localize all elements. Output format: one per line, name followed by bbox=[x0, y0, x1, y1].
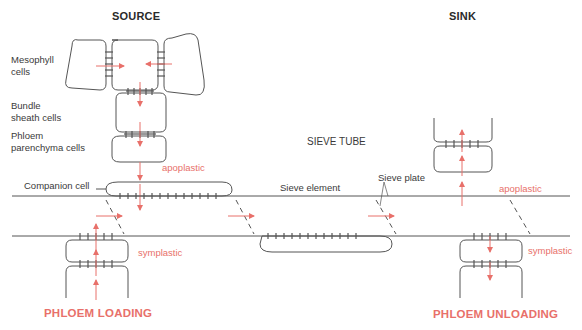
sink-symplastic-cells bbox=[460, 233, 522, 298]
bundle-sheath-label: Bundle sheath cells bbox=[11, 100, 61, 124]
sink-apoplastic-cells bbox=[434, 118, 492, 206]
sieve-plate-label: Sieve plate bbox=[378, 172, 425, 184]
phloem-parenchyma-label: Phloem parenchyma cells bbox=[11, 130, 85, 154]
sink-symplastic-label: symplastic bbox=[528, 245, 572, 257]
phloem-unloading-label: PHLOEM UNLOADING bbox=[433, 308, 558, 320]
source-symplastic-label: symplastic bbox=[138, 247, 182, 259]
companion-cell-middle bbox=[260, 233, 392, 252]
sieve-tube-header: SIEVE TUBE bbox=[307, 136, 366, 148]
mesophyll-cells bbox=[66, 34, 205, 95]
sink-apoplastic-label: apoplastic bbox=[499, 183, 542, 195]
source-apoplastic-label: apoplastic bbox=[162, 162, 205, 174]
sink-header: SINK bbox=[449, 10, 476, 22]
phloem-parenchyma-cell bbox=[112, 122, 166, 180]
companion-cell-label: Companion cell bbox=[24, 180, 89, 192]
diagram-graphics bbox=[0, 0, 582, 330]
source-symplastic-cells bbox=[66, 224, 128, 300]
phloem-loading-label: PHLOEM LOADING bbox=[44, 307, 152, 319]
mesophyll-label: Mesophyll cells bbox=[11, 54, 54, 78]
source-header: SOURCE bbox=[112, 10, 160, 22]
phloem-transport-diagram: SOURCE SINK SIEVE TUBE Mesophyll cells B… bbox=[0, 0, 582, 330]
sieve-element-label: Sieve element bbox=[280, 182, 340, 194]
